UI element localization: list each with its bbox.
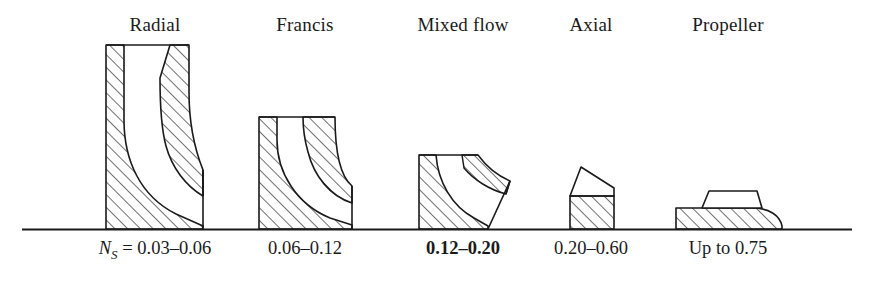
francis-shroud-wall <box>303 117 352 203</box>
caption-propeller: Up to 0.75 <box>689 238 768 259</box>
impeller-francis <box>259 117 352 229</box>
caption-francis: 0.06–0.12 <box>268 238 342 259</box>
radial-shroud-wall <box>160 45 203 196</box>
propeller-hub <box>702 191 762 208</box>
ns-equals: = <box>118 238 138 258</box>
impeller-mixed-flow <box>419 155 510 229</box>
caption-mixed-flow: 0.12–0.20 <box>426 238 500 259</box>
impeller-propeller <box>676 191 782 229</box>
impeller-axial <box>570 167 614 229</box>
propeller-base <box>676 208 782 229</box>
caption-radial: NS = 0.03–0.06 <box>99 238 212 263</box>
caption-row: NS = 0.03–0.06 0.06–0.12 0.12–0.20 0.20–… <box>0 238 872 278</box>
axial-hub <box>570 196 614 229</box>
impeller-radial <box>106 45 203 229</box>
mixed-vane <box>462 155 510 194</box>
axial-blade <box>570 167 614 196</box>
caption-value-radial: 0.03–0.06 <box>137 238 211 258</box>
ns-symbol: N <box>99 238 111 258</box>
pump-impeller-diagram: Radial Francis Mixed flow Axial Propelle… <box>0 0 872 281</box>
caption-axial: 0.20–0.60 <box>554 238 628 259</box>
